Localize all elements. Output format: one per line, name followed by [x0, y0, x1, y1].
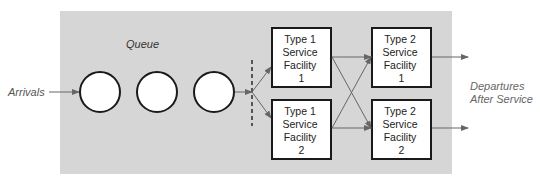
queuing-diagram: Queue Arrivals Type 1 Service Facility 1… — [0, 0, 540, 184]
facility-type1-1: Type 1 Service Facility 1 — [272, 28, 331, 87]
arrivals-label: Arrivals — [7, 86, 45, 98]
departures-label: Departures After Service — [469, 80, 533, 105]
facility-type2-2: Type 2 Service Facility 2 — [372, 100, 431, 159]
queue-customer-2 — [137, 72, 177, 112]
facility-type1-2: Type 1 Service Facility 2 — [272, 100, 331, 159]
queue-customer-3 — [194, 72, 234, 112]
queue-customer-1 — [80, 72, 120, 112]
facility-type2-1: Type 2 Service Facility 1 — [372, 28, 431, 87]
queue-label: Queue — [126, 38, 159, 50]
